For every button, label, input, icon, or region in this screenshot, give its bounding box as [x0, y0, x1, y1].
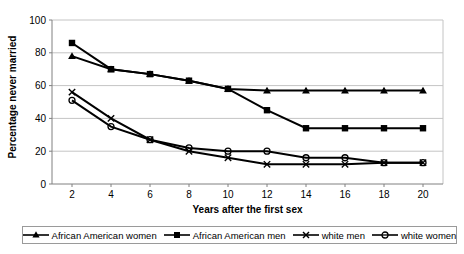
x-axis-title: Years after the first sex [52, 204, 443, 215]
marker-square [342, 125, 348, 131]
legend-item-white-men: white men [293, 230, 365, 241]
x-tick-label: 6 [147, 189, 153, 200]
legend-label: white men [322, 230, 365, 241]
marker-square [108, 66, 114, 72]
legend-marker-x-icon [293, 230, 319, 240]
y-tick-label: 100 [29, 15, 46, 26]
y-axis-title: Percentage never married [7, 22, 18, 172]
marker-square [186, 77, 192, 83]
marker-square [147, 71, 153, 77]
legend-label: African American men [193, 230, 286, 241]
x-tick-label: 8 [186, 189, 192, 200]
x-tick-label: 20 [417, 189, 429, 200]
legend-item-african-american-women: African American women [23, 230, 157, 241]
x-tick-label: 18 [378, 189, 390, 200]
legend-marker-triangle-icon [23, 230, 49, 240]
plot-area: 0204060801002468101214161820 [0, 0, 464, 225]
legend-marker-circle-icon [372, 230, 398, 240]
marker-square [381, 125, 387, 131]
x-tick-label: 10 [222, 189, 234, 200]
x-tick-label: 2 [69, 189, 75, 200]
x-tick-label: 14 [300, 189, 312, 200]
y-tick-label: 80 [35, 47, 47, 58]
y-tick-label: 0 [40, 179, 46, 190]
marker-square [264, 107, 270, 113]
marker-square [69, 40, 75, 46]
legend-marker-square-icon [164, 230, 190, 240]
legend-label: African American women [52, 230, 157, 241]
y-tick-label: 60 [35, 80, 47, 91]
x-tick-label: 4 [108, 189, 114, 200]
legend-label: white women [401, 230, 456, 241]
line-chart: 0204060801002468101214161820 Percentage … [0, 0, 464, 254]
marker-square [225, 86, 231, 92]
marker-square [303, 125, 309, 131]
legend: African American women African American … [22, 226, 457, 244]
series-line-white-women [72, 100, 423, 162]
y-tick-label: 20 [35, 146, 47, 157]
legend-item-white-women: white women [372, 230, 456, 241]
x-tick-label: 16 [339, 189, 351, 200]
y-tick-label: 40 [35, 113, 47, 124]
legend-item-african-american-men: African American men [164, 230, 286, 241]
x-tick-label: 12 [261, 189, 273, 200]
marker-square [420, 125, 426, 131]
